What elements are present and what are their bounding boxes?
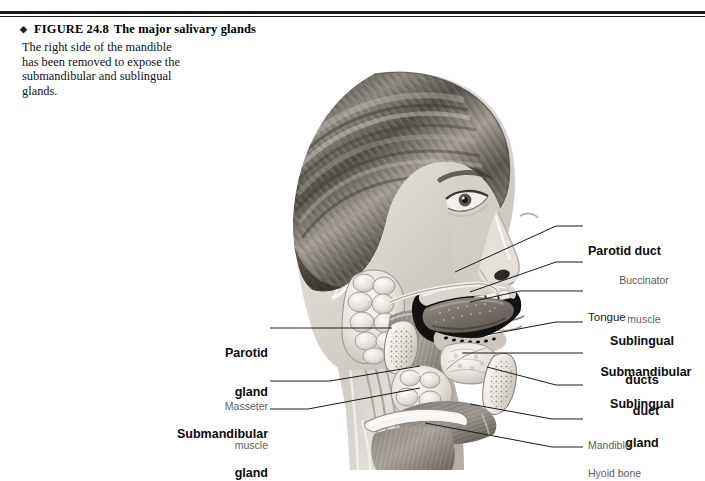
- label-submandibular-gland-line2: gland: [138, 467, 268, 480]
- figure-heading: ◆FIGURE 24.8The major salivary glands: [20, 22, 256, 37]
- figure-number: FIGURE 24.8: [34, 22, 109, 36]
- figure-title: The major salivary glands: [114, 22, 256, 36]
- header-rule-thick: [0, 11, 705, 14]
- label-parotid-gland-line1: Parotid: [162, 347, 268, 360]
- diamond-bullet-icon: ◆: [20, 24, 27, 34]
- figure-caption: The right side of the mandible has been …: [22, 40, 182, 98]
- label-submandibular-gland: Submandibular gland: [138, 402, 268, 481]
- header-rule-thin: [0, 16, 705, 17]
- label-hyoid-bone-line1: Hyoid bone: [588, 467, 641, 480]
- label-sublingual-gland-line1: Sublingual: [588, 398, 696, 411]
- label-hyoid-bone: Hyoid bone: [588, 441, 641, 481]
- label-submandibular-gland-line1: Submandibular: [138, 428, 268, 441]
